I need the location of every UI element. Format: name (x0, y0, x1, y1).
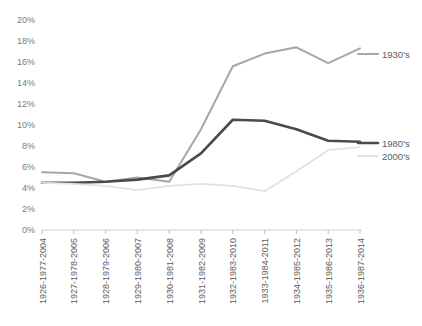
legend-label-1930s: 1930's (382, 49, 410, 60)
y-axis-tick-label: 20% (17, 15, 35, 25)
x-axis-tick-label: 1930-1981-2008 (165, 238, 175, 304)
y-axis-tick-label: 14% (17, 78, 35, 88)
x-axis-tick-label: 1932-1983-2010 (228, 238, 238, 304)
x-axis-tick-label: 1934-1985-2012 (292, 238, 302, 304)
x-axis-tick-label: 1927-1978-2005 (69, 238, 79, 304)
x-axis-tick-label: 1931-1982-2009 (197, 238, 207, 304)
legend-label-2000s: 2000's (382, 151, 410, 162)
x-axis-tick-label: 1928-1979-2006 (101, 238, 111, 304)
x-axis-tick-label: 1929-1980-2007 (133, 238, 143, 304)
y-axis-tick-label: 16% (17, 57, 35, 67)
y-axis-tick-label: 0% (22, 225, 35, 235)
x-axis-tick-label: 1936-1987-2014 (356, 238, 366, 304)
y-axis-tick-label: 10% (17, 120, 35, 130)
y-axis-tick-label: 8% (22, 141, 35, 151)
y-axis-tick-label: 18% (17, 36, 35, 46)
y-axis-tick-label: 6% (22, 162, 35, 172)
y-axis-tick-label: 12% (17, 99, 35, 109)
y-axis-tick-label: 4% (22, 183, 35, 193)
x-axis-tick-label: 1926-1977-2004 (38, 238, 48, 304)
x-axis-tick-label: 1935-1986-2013 (324, 238, 334, 304)
line-chart: 0%2%4%6%8%10%12%14%16%18%20%1926-1977-20… (0, 0, 422, 326)
y-axis-tick-label: 2% (22, 204, 35, 214)
x-axis-tick-label: 1933-1984-2011 (260, 238, 270, 303)
legend-label-1980s: 1980's (382, 138, 410, 149)
chart-container: 0%2%4%6%8%10%12%14%16%18%20%1926-1977-20… (0, 0, 422, 326)
